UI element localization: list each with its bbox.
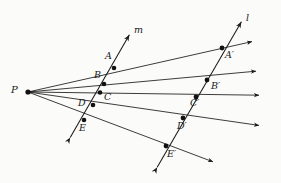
label-line-l: l <box>246 13 249 23</box>
point-B <box>102 82 107 87</box>
point-A <box>112 66 117 71</box>
ray-to-B-and-B-prime <box>28 71 256 92</box>
label-point-B-prime: B′ <box>211 81 220 91</box>
label-point-C: C <box>104 92 111 102</box>
label-line-m: m <box>134 25 143 35</box>
label-point-A-prime: A′ <box>225 50 234 60</box>
label-point-E: E <box>79 123 86 133</box>
geometry-diagram-canvas: P A B C D E A′ B′ C′ D′ E′ m l <box>0 0 281 183</box>
label-point-P: P <box>11 85 18 95</box>
point-P <box>25 89 30 94</box>
point-B-prime <box>205 78 210 83</box>
label-point-D: D <box>78 98 86 108</box>
point-D <box>91 103 96 108</box>
label-point-B: B <box>94 70 101 80</box>
label-point-D-prime: D′ <box>177 121 187 131</box>
point-C <box>98 90 103 95</box>
point-A-prime <box>220 46 225 51</box>
label-point-A: A <box>105 51 112 61</box>
label-point-E-prime: E′ <box>167 149 176 159</box>
ray-to-D-and-D-prime <box>28 92 259 125</box>
ray-to-C-and-C-prime <box>28 92 259 95</box>
label-point-C-prime: C′ <box>190 98 199 108</box>
